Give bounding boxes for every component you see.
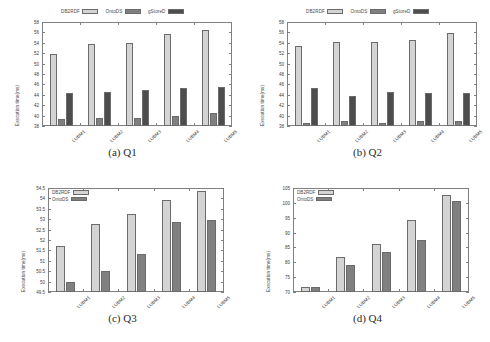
bar	[172, 116, 179, 126]
y-axis-tick-label: 38	[279, 124, 284, 129]
y-axis-label: Execution time(ms)	[15, 85, 20, 126]
bar	[137, 254, 146, 292]
y-axis-tick-mark	[466, 247, 469, 248]
x-axis-tick-mark	[363, 188, 364, 191]
x-axis-tick-mark	[80, 22, 81, 25]
legend-q3: DB2RDF OntoDS	[52, 190, 89, 202]
x-axis-tick-label: LUBM5	[468, 129, 483, 143]
x-axis-tick-mark	[118, 188, 119, 191]
y-axis-tick-mark	[287, 74, 290, 75]
bar	[164, 34, 171, 126]
legend-q1: DB2RDF OntoDS gStoreD	[0, 9, 245, 14]
x-axis-tick-mark	[434, 188, 435, 191]
y-axis-tick-mark	[293, 292, 296, 293]
y-axis-tick-label: 56	[34, 30, 39, 35]
y-axis-tick-mark	[287, 126, 290, 127]
bar	[336, 257, 345, 292]
bar	[372, 244, 381, 292]
x-axis-tick-mark	[156, 123, 157, 126]
y-axis-tick-mark	[293, 188, 296, 189]
y-axis-tick-mark	[287, 95, 290, 96]
bar	[417, 240, 426, 292]
y-axis-tick-mark	[293, 233, 296, 234]
bar	[295, 46, 302, 126]
y-axis-label: Execution time(ms)	[266, 251, 271, 292]
y-axis-tick-mark	[466, 262, 469, 263]
legend-item-ontods: OntoDS	[105, 9, 140, 14]
legend-label-ontods: OntoDS	[297, 197, 313, 202]
y-axis-tick-label: 51.5	[36, 248, 45, 253]
y-axis-tick-mark	[48, 188, 51, 189]
x-axis-tick-label: LUBM4	[426, 295, 441, 309]
y-axis-tick-mark	[287, 116, 290, 117]
y-axis-tick-label: 44	[34, 92, 39, 97]
y-axis-tick-mark	[474, 64, 477, 65]
y-axis-tick-label: 48	[34, 72, 39, 77]
legend-item-db2rdf: DB2RDF	[61, 9, 98, 14]
y-axis-tick-mark	[48, 271, 51, 272]
y-axis-tick-mark	[474, 116, 477, 117]
y-axis-tick-label: 40	[279, 113, 284, 118]
y-axis-tick-label: 90	[285, 230, 290, 235]
caption-q1: (a) Q1	[0, 146, 245, 158]
y-axis-tick-label: 40	[34, 113, 39, 118]
x-axis-tick-label: LUBM5	[223, 129, 238, 143]
legend-label-ontods: OntoDS	[350, 9, 367, 14]
y-axis-tick-mark	[474, 22, 477, 23]
y-axis-tick-label: 53	[40, 217, 45, 222]
legend-item-db2rdf: DB2RDF	[52, 190, 89, 195]
y-axis-tick-mark	[466, 203, 469, 204]
x-axis-tick-mark	[118, 22, 119, 25]
y-axis-tick-mark	[287, 43, 290, 44]
legend-swatch-ontods	[71, 197, 87, 202]
bar	[218, 87, 225, 126]
y-axis-tick-mark	[221, 282, 224, 283]
bar	[341, 121, 348, 126]
y-axis-tick-mark	[48, 209, 51, 210]
legend-item-db2rdf: DB2RDF	[306, 9, 343, 14]
y-axis-tick-label: 46	[34, 82, 39, 87]
bar	[311, 287, 320, 292]
legend-item-ontods: OntoDS	[297, 197, 334, 202]
y-axis-tick-label: 58	[279, 20, 284, 25]
bar	[387, 92, 394, 126]
y-axis-tick-label: 50	[40, 279, 45, 284]
y-axis-tick-mark	[229, 32, 232, 33]
x-axis-tick-label: LUBM2	[111, 295, 126, 309]
y-axis-tick-mark	[287, 105, 290, 106]
x-axis-tick-label: LUBM2	[356, 295, 371, 309]
legend-swatch-db2rdf	[327, 9, 343, 14]
y-axis-tick-mark	[229, 22, 232, 23]
bar	[210, 113, 217, 126]
bar	[301, 287, 310, 292]
y-axis-tick-label: 100	[282, 200, 290, 205]
legend-swatch-gstored	[168, 9, 184, 14]
y-axis-label: Execution time(ms)	[260, 85, 265, 126]
y-axis-tick-label: 50.5	[36, 269, 45, 274]
y-axis-tick-mark	[293, 218, 296, 219]
y-axis-tick-mark	[474, 43, 477, 44]
x-axis-tick-mark	[325, 123, 326, 126]
caption-q2: (b) Q2	[245, 146, 490, 158]
bar	[207, 220, 216, 292]
bar	[66, 282, 75, 292]
legend-swatch-db2rdf	[73, 190, 89, 195]
legend-swatch-ontods	[125, 9, 141, 14]
y-axis-tick-mark	[293, 203, 296, 204]
y-axis-tick-mark	[42, 32, 45, 33]
x-axis-tick-mark	[401, 22, 402, 25]
bar	[91, 224, 100, 292]
x-axis-tick-label: LUBM2	[354, 129, 369, 143]
legend-item-ontods: OntoDS	[350, 9, 385, 14]
panel-q3: DB2RDF OntoDS (c) Q3 Execution time(ms)4…	[0, 171, 245, 342]
y-axis-tick-mark	[287, 53, 290, 54]
y-axis-tick-label: 75	[285, 275, 290, 280]
y-axis-tick-label: 50	[279, 61, 284, 66]
x-axis-tick-mark	[325, 22, 326, 25]
x-axis-tick-label: LUBM3	[392, 129, 407, 143]
bar	[126, 43, 133, 126]
y-axis-tick-label: 49.5	[36, 290, 45, 295]
bar	[50, 54, 57, 126]
y-axis-tick-mark	[48, 240, 51, 241]
y-axis-tick-mark	[229, 43, 232, 44]
